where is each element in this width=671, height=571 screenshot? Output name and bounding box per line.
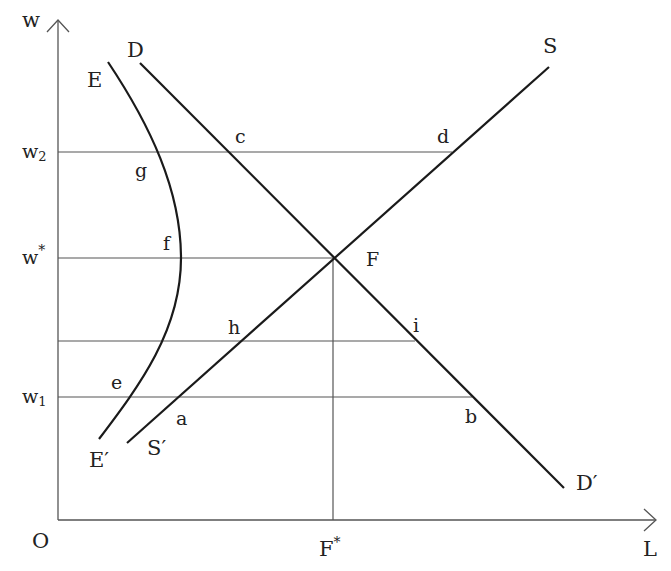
labor-market-diagram: w L O w2w*w1 F* cdgfFhieab DESS′E′D′ <box>0 0 671 571</box>
x-tick-Fstar: F* <box>319 534 341 561</box>
curve-label-Sprime: S′ <box>147 436 166 460</box>
y-tick-w1: w1 <box>22 385 47 409</box>
point-label-b: b <box>465 405 477 427</box>
y-axis-label: w <box>22 8 40 32</box>
curves <box>99 62 564 488</box>
y-tick-labels: w2w*w1 <box>22 140 47 409</box>
guide-lines <box>58 152 472 520</box>
curve-label-Eprime: E′ <box>89 448 109 472</box>
point-label-g: g <box>135 159 147 181</box>
point-label-a: a <box>176 407 187 429</box>
point-label-f: f <box>163 232 172 254</box>
point-label-F: F <box>366 248 379 270</box>
axes: w L O <box>22 8 657 561</box>
point-label-i: i <box>413 314 419 336</box>
supply-curve <box>127 67 549 443</box>
curve-label-E: E <box>87 68 102 92</box>
curve-label-S: S <box>543 34 557 58</box>
point-label-e: e <box>111 371 122 393</box>
origin-label: O <box>32 529 49 553</box>
demand-curve <box>140 63 564 488</box>
curve-label-D: D <box>127 38 144 62</box>
point-label-c: c <box>235 125 246 147</box>
point-label-d: d <box>437 125 449 147</box>
x-tick-labels: F* <box>319 534 341 561</box>
x-axis-label: L <box>643 537 657 561</box>
y-tick-w2: w2 <box>22 140 47 164</box>
curve-label-Dprime: D′ <box>576 471 598 495</box>
point-label-h: h <box>228 316 240 338</box>
y-tick-wstar: w* <box>22 242 45 268</box>
